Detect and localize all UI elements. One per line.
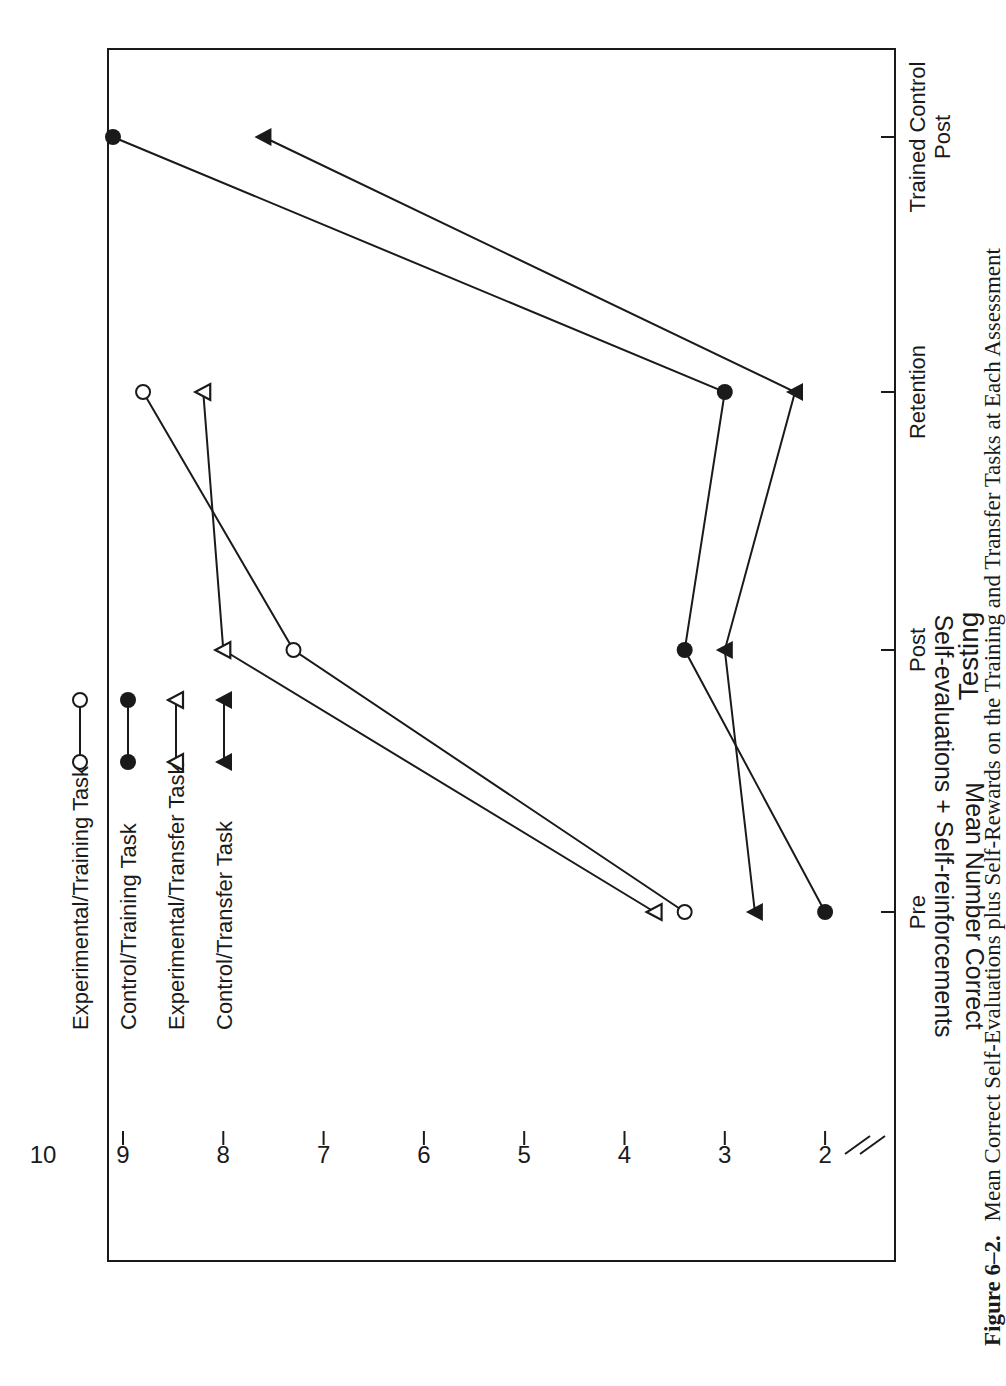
legend-label: Experimental/Transfer Task xyxy=(164,762,189,1030)
filled-circle-icon xyxy=(120,754,136,770)
axis-break-mark xyxy=(845,1136,870,1154)
open-circle-icon xyxy=(73,693,87,707)
open-triangle-icon xyxy=(647,904,662,920)
open-circle-icon xyxy=(73,755,87,769)
x-tick-label: Pre xyxy=(905,895,930,929)
filled-triangle-icon xyxy=(786,383,803,401)
y-tick-label: 5 xyxy=(518,1141,531,1168)
legend-label: Experimental/Training Task xyxy=(68,765,93,1030)
figure-page: 2345678910 PrePostRetentionTrained Contr… xyxy=(0,0,1006,1386)
open-circle-icon xyxy=(287,643,301,657)
caption-text: Mean Correct Self-Evaluations plus Self-… xyxy=(980,248,1005,1222)
filled-triangle-icon xyxy=(716,641,733,659)
series-lines xyxy=(113,137,825,912)
x-tick-label: Trained Control xyxy=(905,62,930,213)
x-tick-label: Post xyxy=(905,628,930,672)
axis-break-mark xyxy=(860,1136,885,1154)
y-tick-label: 10 xyxy=(30,1141,57,1168)
rotated-figure: 2345678910 PrePostRetentionTrained Contr… xyxy=(30,49,1005,1346)
filled-circle-icon xyxy=(120,692,136,708)
y-tick-label: 2 xyxy=(818,1141,831,1168)
caption-label: Figure 6–2. xyxy=(980,1235,1005,1346)
open-circle-icon xyxy=(136,385,150,399)
y-tick-label: 7 xyxy=(317,1141,330,1168)
series-line xyxy=(263,137,795,912)
legend: Experimental/Training TaskControl/Traini… xyxy=(68,691,237,1030)
open-circle-icon xyxy=(678,905,692,919)
x-tick-label-line2: Post xyxy=(930,115,955,159)
filled-circle-icon xyxy=(105,129,121,145)
legend-label: Control/Transfer Task xyxy=(212,820,237,1030)
filled-circle-icon xyxy=(817,904,833,920)
y-tick-label: 3 xyxy=(718,1141,731,1168)
y-tick-label: 9 xyxy=(116,1141,129,1168)
filled-circle-icon xyxy=(677,642,693,658)
y-tick-label: 6 xyxy=(417,1141,430,1168)
y-tick-label: 8 xyxy=(217,1141,230,1168)
series-line xyxy=(203,392,654,912)
filled-triangle-icon xyxy=(254,128,271,146)
x-tick-label: Retention xyxy=(905,345,930,439)
y-tick-label: 4 xyxy=(618,1141,631,1168)
line-chart: 2345678910 PrePostRetentionTrained Contr… xyxy=(0,0,1006,1386)
filled-circle-icon xyxy=(717,384,733,400)
figure-caption: Figure 6–2. Mean Correct Self-Evaluation… xyxy=(980,248,1005,1346)
legend-label: Control/Training Task xyxy=(116,822,141,1030)
y-axis: 2345678910 xyxy=(30,1131,885,1168)
